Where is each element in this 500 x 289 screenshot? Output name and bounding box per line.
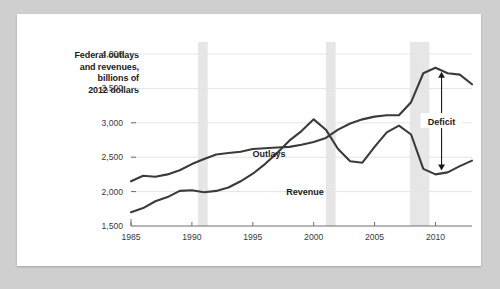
x-tick-label-1995: 1995 [243,232,262,242]
y-axis-ticks [131,54,136,192]
y-tick-label-3,500: 3,500 [101,83,123,93]
recession-band-3 [410,42,429,226]
x-tick-label-2010: 2010 [426,232,445,242]
x-tick-label-1990: 1990 [182,232,201,242]
screenshot-root: Federal outlays and revenues, billions o… [0,0,500,289]
recession-band-1 [198,42,208,226]
series-label-revenue: Revenue [286,187,324,197]
x-tick-label-1985: 1985 [121,232,140,242]
y-tick-label-2,000: 2,000 [101,187,123,197]
x-tick-label-2005: 2005 [365,232,384,242]
line-chart: 4,0003,5003,0002,5002,0001,500 198519901… [17,14,481,266]
series-labels: OutlaysRevenue [252,149,323,197]
x-axis-labels: 198519901995200020052010 [121,232,445,242]
deficit-arrowhead-down [438,164,445,170]
x-tick-label-2000: 2000 [304,232,323,242]
y-tick-label-3,000: 3,000 [101,118,123,128]
chart-card: Federal outlays and revenues, billions o… [17,14,481,266]
deficit-label: Deficit [428,117,456,127]
recession-bands [198,42,429,226]
x-axis-ticks [131,222,435,226]
y-tick-label-1,500: 1,500 [101,221,123,231]
y-axis-labels: 4,0003,5003,0002,5002,0001,500 [101,49,123,231]
y-tick-label-4,000: 4,000 [101,49,123,59]
plot-area: 4,0003,5003,0002,5002,0001,500 198519901… [17,14,481,266]
series-label-outlays: Outlays [252,149,285,159]
y-tick-label-2,500: 2,500 [101,152,123,162]
